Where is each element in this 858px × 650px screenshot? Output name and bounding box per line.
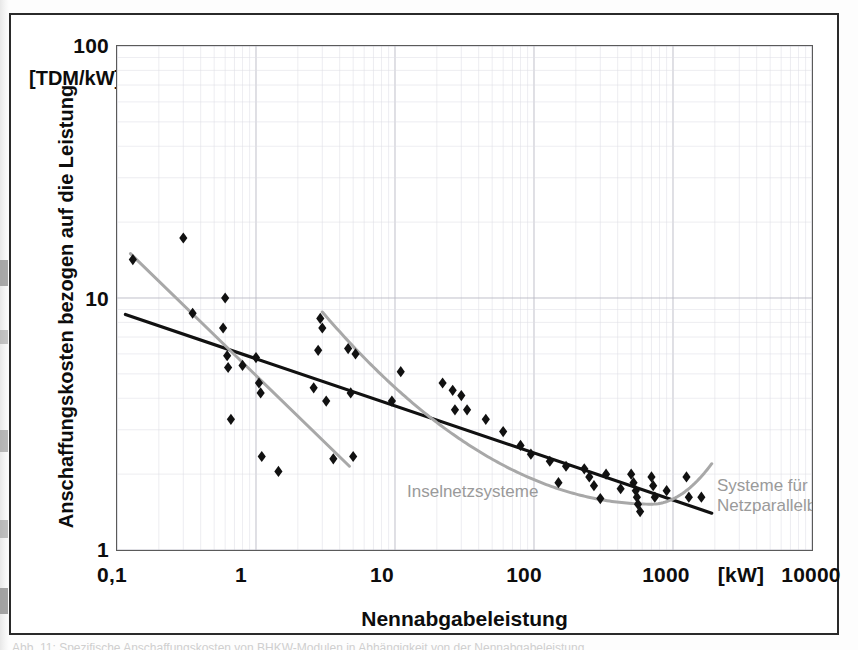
x-tick-label: 10000 (766, 563, 856, 587)
x-tick-label: 10 (347, 563, 417, 587)
figure-caption: Abb. 11: Spezifische Anschaffungskosten … (12, 641, 842, 650)
x-axis-title: Nennabgabeleistung (116, 607, 813, 631)
annotation-text-line1: Systeme für (717, 476, 813, 496)
scan-blob (0, 260, 8, 286)
scan-blob (0, 588, 8, 614)
annotation-text: Inselnetzsysteme (407, 482, 538, 501)
x-tick-label: 1 (206, 563, 276, 587)
y-tick-label: 10 (85, 287, 109, 311)
scan-blob (0, 330, 8, 344)
x-tick-label: 0,1 (77, 563, 147, 587)
scan-blob (0, 430, 8, 452)
x-tick-label: 100 (489, 563, 559, 587)
plot-area: Inselnetzsysteme Systeme für Netzparalle… (116, 45, 813, 551)
data-layer (117, 46, 812, 550)
annotation-inselnetzsysteme: Inselnetzsysteme (407, 482, 538, 502)
figure-frame: [TDM/kW] Anschaffungskosten bezogen auf … (9, 13, 839, 635)
y-tick-label: 1 (97, 538, 109, 562)
x-tick-label: 1000 (626, 563, 706, 587)
scan-edge-artifact (0, 0, 9, 650)
scanned-page: [TDM/kW] Anschaffungskosten bezogen auf … (0, 0, 858, 650)
annotation-text-line2: Netzparallelbetrieb (717, 496, 813, 516)
scan-blob (0, 520, 8, 538)
y-tick-label: 100 (73, 34, 109, 58)
y-tick-label-group: 100 10 1 (45, 15, 109, 650)
annotation-netzparallelbetrieb: Systeme für Netzparallelbetrieb (717, 476, 813, 516)
